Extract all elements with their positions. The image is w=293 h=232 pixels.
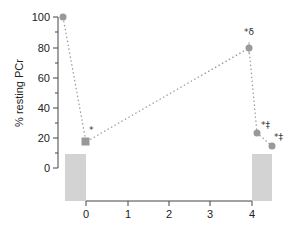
x-tick-labels: 0 1 2 3 4 — [83, 208, 255, 220]
x-axis — [86, 201, 252, 206]
data-point-1 — [60, 14, 67, 21]
x-tick-4: 4 — [249, 208, 255, 220]
y-tick-labels: 100 80 60 40 20 0 — [32, 11, 50, 174]
y-tick-80: 80 — [38, 42, 50, 54]
shaded-region-1 — [65, 154, 86, 201]
x-tick-1: 1 — [125, 208, 131, 220]
series-line — [63, 17, 272, 146]
data-point-5 — [269, 143, 276, 150]
annotation-point-5: *‡ — [274, 132, 284, 142]
data-point-2 — [82, 138, 90, 146]
data-point-4 — [254, 130, 261, 137]
x-tick-3: 3 — [207, 208, 213, 220]
shaded-region-2 — [252, 154, 272, 201]
y-tick-40: 40 — [38, 102, 50, 114]
annotation-point-3: *δ — [244, 27, 255, 37]
y-tick-0: 0 — [44, 162, 50, 174]
y-tick-20: 20 — [38, 132, 50, 144]
annotation-point-2: * — [89, 125, 94, 135]
y-axis — [53, 17, 58, 168]
x-tick-0: 0 — [83, 208, 89, 220]
data-point-3 — [246, 45, 253, 52]
y-tick-60: 60 — [38, 72, 50, 84]
y-axis-title: % resting PCr — [13, 59, 25, 127]
chart-canvas: 100 80 60 40 20 0 % resting PCr 0 1 2 3 … — [0, 0, 293, 232]
x-tick-2: 2 — [166, 208, 172, 220]
annotation-point-4: *‡ — [261, 120, 271, 130]
y-tick-100: 100 — [32, 11, 50, 23]
